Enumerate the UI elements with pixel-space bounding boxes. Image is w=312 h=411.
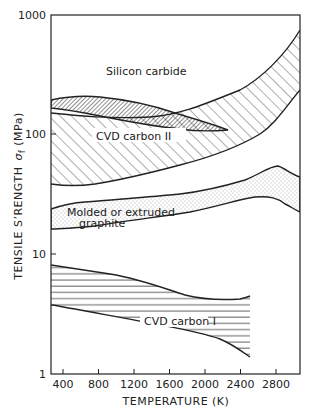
y-axis-title: TENSILE S’RENGTHσf(MPa) [12, 112, 27, 280]
y-tick-100: 100 [25, 128, 46, 141]
x-tick-1600: 1600 [156, 378, 184, 391]
y-axis-subscript: f [18, 150, 27, 153]
x-tick-800: 800 [88, 378, 109, 391]
x-tick-2000: 2000 [191, 378, 219, 391]
y-tick-10: 10 [32, 248, 46, 261]
x-tick-1200: 1200 [120, 378, 148, 391]
tensile-strength-chart: Silicon carbide CVD carbon II Molded or … [0, 0, 312, 411]
y-tick-1: 1 [39, 368, 46, 381]
y-axis-title-text: TENSILE S’RENGTH [12, 167, 25, 281]
x-tick-2400: 2400 [227, 378, 255, 391]
label-silicon-carbide: Silicon carbide [106, 65, 187, 78]
x-tick-400: 400 [53, 378, 74, 391]
y-axis-units: (MPa) [12, 112, 25, 145]
label-graphite-line2: graphite [79, 217, 126, 230]
y-tick-1000: 1000 [18, 9, 46, 22]
label-cvd-carbon-ii: CVD carbon II [96, 130, 171, 143]
label-cvd-carbon-i: CVD carbon I [144, 315, 216, 328]
x-axis-title: TEMPERATURE (K) [122, 395, 230, 408]
cvd-carbon-i-region [51, 265, 250, 357]
x-axis [63, 369, 276, 374]
x-tick-2800: 2800 [262, 378, 290, 391]
